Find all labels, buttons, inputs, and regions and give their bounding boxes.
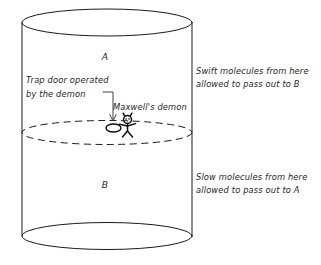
cylinder-bottom-rim (22, 223, 192, 250)
chamber-label-b: B (102, 179, 108, 190)
diagram-canvas: A B T (0, 0, 321, 265)
trap-door-annotation-line1: Trap door operated (26, 75, 109, 85)
stick-figure-demon-icon (120, 113, 136, 137)
cylinder-top-rim (22, 9, 192, 36)
partition-ellipse (22, 121, 192, 145)
dashed-partition-ellipse-icon (22, 121, 192, 145)
lower-note-line2: allowed to pass out to A (196, 185, 300, 195)
maxwells-demon-diagram: A B T (0, 0, 321, 265)
upper-note-line1: Swift molecules from here (196, 66, 309, 76)
lower-note-line1: Slow molecules from here (196, 172, 307, 182)
demon-label: Maxwell's demon (113, 102, 187, 112)
trap-door-annotation: Trap door operated by the demon (26, 75, 109, 99)
trap-door-annotation-line2: by the demon (26, 89, 86, 99)
lower-note: Slow molecules from here allowed to pass… (196, 172, 307, 195)
leader-path (103, 92, 113, 119)
upper-note-line2: allowed to pass out to B (196, 79, 300, 89)
trap-door-ellipse-icon (106, 124, 121, 132)
chamber-label-a: A (101, 51, 108, 62)
demon-horn-right (130, 113, 132, 116)
trap-door (106, 124, 121, 132)
demon-horn-left (123, 113, 125, 116)
upper-note: Swift molecules from here allowed to pas… (196, 66, 309, 89)
demon-legs (123, 131, 133, 137)
